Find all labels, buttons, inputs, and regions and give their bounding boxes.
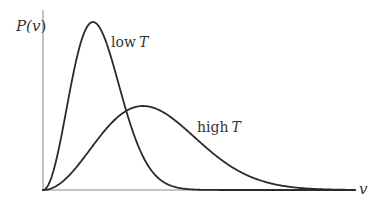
y-axis-label: P(v) xyxy=(15,17,46,35)
low-temperature-curve xyxy=(43,22,355,190)
high-t-label: highT xyxy=(197,119,242,135)
maxwell-boltzmann-chart: P(v) v lowT highT xyxy=(0,0,382,205)
low-t-label: lowT xyxy=(111,34,150,50)
x-axis-label: v xyxy=(359,180,368,198)
